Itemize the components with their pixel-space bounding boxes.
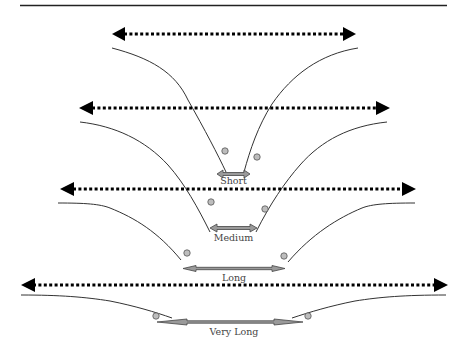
marker-circle xyxy=(184,250,190,256)
marker-circle xyxy=(305,313,311,319)
label-long: Long xyxy=(222,272,246,283)
curve-left-row-3 xyxy=(58,203,181,260)
label-short: Short xyxy=(220,175,247,186)
arrowhead-right-icon xyxy=(402,182,416,196)
marker-circle xyxy=(153,313,159,319)
marker-circle xyxy=(262,206,268,212)
marker-circle xyxy=(222,148,228,154)
range-arrow-medium xyxy=(210,224,257,232)
marker-circle xyxy=(281,253,287,259)
curve-left-row-1 xyxy=(112,48,226,172)
marker-circle xyxy=(208,199,214,205)
curve-left-row-4 xyxy=(21,295,172,318)
arrowhead-left-icon xyxy=(21,278,35,292)
arrowhead-left-icon xyxy=(112,27,125,41)
dotted-arrow-row-2 xyxy=(79,101,390,115)
range-diagram: Short Medium Long Very Long xyxy=(0,0,467,359)
dotted-arrow-row-1 xyxy=(112,27,356,41)
arrowhead-left-icon xyxy=(79,101,93,115)
arrowhead-left-icon xyxy=(60,182,74,196)
curve-right-row-1 xyxy=(244,48,358,172)
curve-right-row-4 xyxy=(292,295,446,318)
label-medium: Medium xyxy=(214,232,254,243)
curve-right-row-3 xyxy=(288,203,415,262)
curve-left-row-2 xyxy=(80,122,210,232)
arrowhead-right-icon xyxy=(376,101,390,115)
arrowhead-right-icon xyxy=(434,278,448,292)
range-arrow-long xyxy=(183,266,285,272)
marker-circle xyxy=(254,154,260,160)
label-very-long: Very Long xyxy=(209,326,259,337)
range-arrow-very-long xyxy=(157,319,303,325)
curve-right-row-2 xyxy=(256,122,387,232)
arrowhead-right-icon xyxy=(343,27,356,41)
